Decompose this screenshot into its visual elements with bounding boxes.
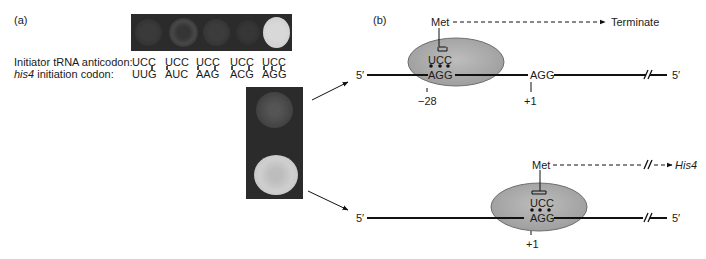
- ribosome-top: [408, 38, 504, 86]
- bottom-ribosome-codon: AGG: [530, 212, 554, 224]
- bottom-amino-acid-met: Met: [532, 159, 550, 171]
- top-outcome-terminate: Terminate: [611, 16, 659, 28]
- translation-diagram: [0, 0, 706, 259]
- bottom-5prime-left: 5′: [356, 212, 364, 224]
- top-mrna-diagram: [367, 22, 667, 92]
- top-position-plus1: +1: [524, 95, 537, 107]
- top-position-minus28: −28: [418, 95, 437, 107]
- top-anticodon: UCC: [428, 54, 452, 66]
- top-amino-acid-met: Met: [431, 16, 449, 28]
- top-ribosome-codon: AGG: [428, 69, 452, 81]
- top-5prime-left: 5′: [356, 69, 364, 81]
- bottom-5prime-right: 5′: [672, 212, 680, 224]
- bottom-outcome-his4: His4: [675, 159, 697, 171]
- bottom-anticodon: UCC: [530, 197, 554, 209]
- break-mark-bottom: [644, 213, 648, 222]
- arrow-to-bottom-diagram: [308, 191, 348, 210]
- bottom-position-plus1: +1: [526, 238, 539, 250]
- bottom-mrna-diagram: [367, 160, 672, 235]
- top-5prime-right: 5′: [672, 69, 680, 81]
- top-downstream-codon: AGG: [530, 69, 554, 81]
- arrow-to-top-diagram: [312, 82, 348, 100]
